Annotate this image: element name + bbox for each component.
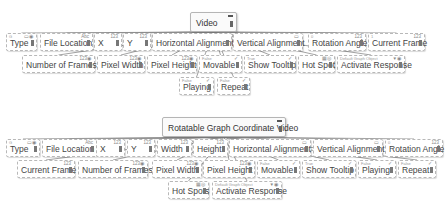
property-label: Width [161,144,183,155]
drag-handle-icon[interactable] [145,40,148,46]
property-label: Y [131,144,137,155]
drag-handle-icon[interactable] [290,62,293,68]
drag-handle-icon[interactable] [119,146,122,152]
property-label: Pixel Width [156,165,199,176]
drag-handle-icon[interactable] [276,188,279,194]
collapse-bar-icon[interactable] [277,120,282,122]
drag-handle-icon[interactable] [430,167,433,173]
property-label: Horizontal Alignment [156,38,234,49]
property-node-file-location[interactable]: AbcFile Location [40,33,93,51]
property-label: Pixel Height [207,165,252,176]
property-node-activate-response[interactable]: Default Graph Object▼◉Activate Response [212,181,282,199]
property-label: Vertical Alignment [237,38,305,49]
drag-handle-icon[interactable] [244,84,247,90]
property-label: Current Frame [21,165,76,176]
property-node-show-tooltip[interactable]: True✓Show Tooltip [302,160,356,178]
drag-handle-icon[interactable] [196,167,199,173]
drag-handle-icon[interactable] [142,167,145,173]
property-node-activate-response[interactable]: Default Graph Object▼◉Activate Response [337,55,405,73]
drag-handle-icon[interactable] [419,40,422,46]
drag-handle-icon[interactable] [236,62,239,68]
property-node-y[interactable]: 123Y [123,33,151,51]
drag-handle-icon[interactable] [31,40,34,46]
type-indicator-icon: 123 [139,34,147,39]
property-label: Y [127,38,133,49]
property-node-repeat[interactable]: False✓Repeat [398,160,436,178]
property-label: Show Tooltip [306,165,354,176]
root-node-video[interactable]: Video [190,12,237,32]
property-node-type[interactable]: G▭◉Type [6,139,40,157]
drag-handle-icon[interactable] [222,146,225,152]
drag-handle-icon[interactable] [149,146,152,152]
property-node-rotation-angle[interactable]: 0123Rotation Angle [385,139,443,157]
property-node-pixel-width[interactable]: 123◉Pixel Width [152,160,202,178]
property-node-file-location[interactable]: AbcFile Location [42,139,97,157]
property-node-horizontal-alignment[interactable]: Horizontal Alignment [152,33,232,51]
property-node-hot-spots[interactable]: ▦◎Hot Spots [168,181,209,199]
drag-handle-icon[interactable] [69,167,72,173]
property-node-vertical-alignment[interactable]: ▭Vertical Alignment [313,139,383,157]
drag-handle-icon[interactable] [437,146,440,152]
property-node-x[interactable]: 123X [94,33,122,51]
property-node-number-of-frames[interactable]: 123◉Number of Frames [78,160,148,178]
drag-handle-icon[interactable] [279,126,282,132]
property-node-rotation-angle[interactable]: 0123Rotation Angle [308,33,366,51]
property-node-hot-spot[interactable]: ▦◎Hot Spot [298,55,335,73]
property-node-height[interactable]: 123Height [193,139,228,157]
drag-handle-icon[interactable] [87,40,90,46]
drag-handle-icon[interactable] [186,146,189,152]
collapse-bar-icon[interactable] [228,15,233,17]
property-label: Movable [203,60,235,71]
property-node-movable[interactable]: False✓Movable [199,55,242,73]
root-node-rotatable-graph-coordinate-video[interactable]: Rotatable Graph Coordinate Video [162,117,286,137]
property-label: Rotation Angle [312,38,367,49]
property-label: Show Tooltip [248,60,296,71]
property-label: File Location [44,38,92,49]
property-node-width[interactable]: 123Width [157,139,192,157]
root-node-label: Video [196,18,218,28]
drag-handle-icon[interactable] [191,62,194,68]
drag-handle-icon[interactable] [329,62,332,68]
property-node-pixel-height[interactable]: 123◉Pixel Height [203,160,255,178]
property-node-y[interactable]: 123Y [127,139,155,157]
drag-handle-icon[interactable] [360,40,363,46]
drag-handle-icon[interactable] [226,40,229,46]
property-node-type[interactable]: G▭◉Type [6,33,37,51]
type-indicator-icon: 123 [143,140,151,145]
property-label: Number of Frames [26,60,97,71]
property-node-playing[interactable]: False✓Playing [358,160,396,178]
drag-handle-icon[interactable] [208,84,211,90]
drag-handle-icon[interactable] [294,167,297,173]
drag-handle-icon[interactable] [230,21,233,27]
property-node-vertical-alignment[interactable]: ▭Vertical Alignment [233,33,303,51]
property-label: Playing [183,82,211,93]
property-node-horizontal-alignment[interactable]: ▭Horizontal Alignment [229,139,311,157]
property-label: X [98,38,104,49]
drag-handle-icon[interactable] [399,62,402,68]
drag-handle-icon[interactable] [203,188,206,194]
type-indicator-icon: 123 [113,140,121,145]
property-node-current-frame[interactable]: 1123Current Frame [368,33,425,51]
property-node-pixel-width[interactable]: 123◉Pixel Width [97,55,145,73]
drag-handle-icon[interactable] [139,62,142,68]
property-node-x[interactable]: 123X [96,139,125,157]
property-node-pixel-height[interactable]: 123◉Pixel Height [147,55,197,73]
drag-handle-icon[interactable] [305,146,308,152]
drag-handle-icon[interactable] [377,146,380,152]
property-node-movable[interactable]: False✓Movable [257,160,300,178]
property-node-show-tooltip[interactable]: True✓Show Tooltip [244,55,296,73]
drag-handle-icon[interactable] [34,146,37,152]
drag-handle-icon[interactable] [116,40,119,46]
property-label: File Location [46,144,94,155]
drag-handle-icon[interactable] [350,167,353,173]
drag-handle-icon[interactable] [91,146,94,152]
property-node-playing[interactable]: False✓Playing [179,77,214,95]
property-node-number-of-frames[interactable]: 123◉Number of Frames [22,55,95,73]
drag-handle-icon[interactable] [297,40,300,46]
property-node-current-frame[interactable]: 123Current Frame [17,160,75,178]
drag-handle-icon[interactable] [249,167,252,173]
property-node-repeat[interactable]: False✓Repeat [217,77,250,95]
property-label: Movable [261,165,293,176]
drag-handle-icon[interactable] [89,62,92,68]
drag-handle-icon[interactable] [390,167,393,173]
